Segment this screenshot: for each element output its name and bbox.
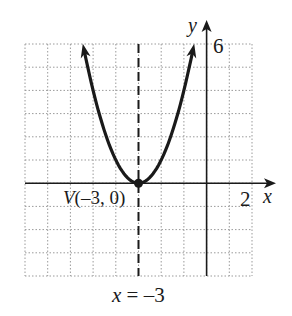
vertex-letter: V	[63, 187, 75, 208]
y-axis-label: y	[188, 15, 197, 35]
vertex-point	[134, 179, 143, 188]
vertex-coords: (–3, 0)	[75, 187, 126, 208]
axis-of-symmetry-label: x = –3	[112, 285, 165, 306]
x-axis-label: x	[263, 186, 272, 206]
vertex-label: V(–3, 0)	[63, 188, 125, 207]
y-tick-label-6: 6	[213, 36, 224, 57]
x-tick-label-2: 2	[240, 189, 251, 210]
parabola-graph	[0, 0, 292, 316]
